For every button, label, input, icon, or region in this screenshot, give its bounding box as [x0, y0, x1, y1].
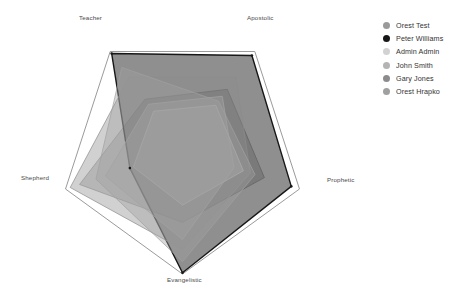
radar-data-point[interactable] — [129, 167, 132, 170]
legend-marker-icon — [383, 88, 390, 95]
legend-item-label: Peter Williams — [396, 34, 443, 43]
legend-item-label: Orest Hrapko — [396, 87, 440, 96]
legend-marker-icon — [383, 22, 390, 29]
radar-chart-page: TeacherApostolicPropheticEvangelisticShe… — [0, 0, 473, 299]
radar-data-point[interactable] — [110, 52, 113, 55]
legend-item-label: Gary Jones — [396, 74, 434, 83]
radar-axis-label: Teacher — [79, 14, 102, 21]
legend-item[interactable]: Gary Jones — [383, 72, 473, 85]
legend-item[interactable]: John Smith — [383, 59, 473, 72]
radar-data-point[interactable] — [251, 54, 254, 57]
legend-marker-icon — [383, 48, 390, 55]
legend-marker-icon — [383, 75, 390, 82]
legend-item[interactable]: Orest Test — [383, 19, 473, 32]
legend-marker-icon — [383, 35, 390, 42]
radar-data-point[interactable] — [181, 271, 184, 274]
radar-chart-svg — [0, 0, 365, 299]
radar-axis-label: Prophetic — [327, 176, 355, 183]
radar-axis-label: Shepherd — [21, 174, 49, 181]
legend-item[interactable]: Orest Hrapko — [383, 85, 473, 98]
radar-data-point[interactable] — [290, 185, 293, 188]
radar-axis-label: Evangelistic — [167, 276, 202, 283]
chart-legend: Orest TestPeter WilliamsAdmin AdminJohn … — [365, 0, 473, 299]
radar-chart-plot: TeacherApostolicPropheticEvangelisticShe… — [0, 0, 365, 299]
radar-axis-label: Apostolic — [247, 14, 273, 21]
legend-item[interactable]: Peter Williams — [383, 32, 473, 45]
legend-item[interactable]: Admin Admin — [383, 45, 473, 58]
legend-item-label: Admin Admin — [396, 47, 439, 56]
legend-marker-icon — [383, 62, 390, 69]
legend-item-label: John Smith — [396, 61, 433, 70]
legend-item-label: Orest Test — [396, 21, 430, 30]
